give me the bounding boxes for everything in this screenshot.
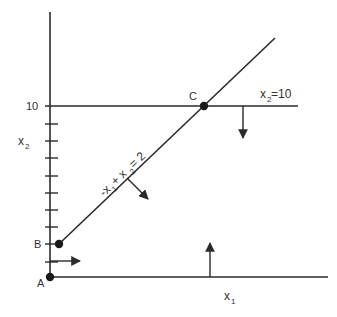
point-a-label: A xyxy=(37,277,45,289)
point-b-label: B xyxy=(34,238,41,250)
point-a xyxy=(46,273,54,281)
x1-axis-label: x 1 xyxy=(224,289,236,306)
x2-axis-label: x 2 xyxy=(18,134,30,151)
svg-text:-x: -x xyxy=(96,182,113,199)
svg-text:x: x xyxy=(224,289,230,303)
svg-text:=10: =10 xyxy=(271,87,292,101)
svg-text:1: 1 xyxy=(231,297,236,306)
constraint-label-x2-eq-10: x 2 =10 xyxy=(260,87,292,104)
point-c-label: C xyxy=(189,90,197,102)
point-c xyxy=(200,102,208,110)
svg-text:x: x xyxy=(18,134,24,148)
svg-text:2: 2 xyxy=(25,142,30,151)
point-b xyxy=(55,240,63,248)
constraint-line-neg-x1-plus-x2-eq-2 xyxy=(59,38,275,244)
lp-diagram: A B C 10 x 2 x 1 x 2 =10 -x 1 + x 2 = 2 xyxy=(0,0,337,317)
arrow-diag-icon xyxy=(127,178,148,199)
svg-text:x: x xyxy=(260,87,266,101)
y-tick-label-10: 10 xyxy=(26,100,38,112)
